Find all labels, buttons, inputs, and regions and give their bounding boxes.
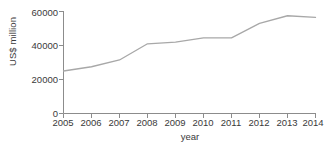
x-tick-label-2012: 2012 — [248, 117, 269, 128]
x-tick-label-2007: 2007 — [108, 117, 129, 128]
x-tick-label-2011: 2011 — [221, 117, 241, 128]
x-axis-title: year — [62, 131, 318, 142]
x-tick-label-2014: 2014 — [302, 117, 323, 128]
x-tick-label-2010: 2010 — [192, 117, 213, 128]
line-chart: US$ million 60000 40000 20000 0 — [0, 0, 326, 150]
x-tick-label-2005: 2005 — [52, 117, 73, 128]
x-tick-label-2008: 2008 — [136, 117, 157, 128]
x-tick-label-2013: 2013 — [276, 117, 297, 128]
x-tick-label-2009: 2009 — [164, 117, 185, 128]
x-tick-label-2006: 2006 — [80, 117, 101, 128]
y-axis-ticks — [59, 12, 64, 114]
x-axis-tick-labels: 2005 2006 2007 2008 2009 2010 2011 2012 … — [0, 117, 326, 131]
data-series-line — [64, 16, 316, 71]
